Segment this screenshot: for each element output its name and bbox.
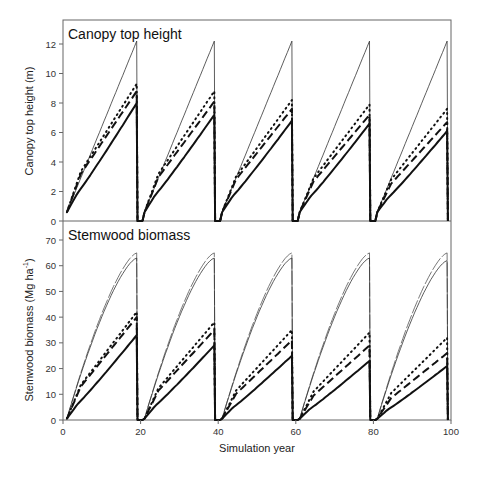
canopy-height-panel: Canopy top height 024681012 Canopy top h… [23,26,448,227]
y-tick-label: 20 [45,363,56,374]
y-tick-label: 8 [51,98,56,109]
y-tick-label: 4 [51,157,56,168]
x-tick-label: 40 [213,426,224,437]
y-tick-label: 10 [45,389,56,400]
x-tick-label: 0 [60,426,65,437]
y-tick-label: 6 [51,127,56,138]
y-tick-label: 0 [51,216,56,227]
y-axis-ticks-top: 024681012 [45,39,63,227]
x-tick-label: 60 [291,426,302,437]
y-axis-label-top: Canopy top height (m) [23,67,35,176]
y-axis-ticks-bottom: 010203040506070 [45,235,63,426]
y-tick-label: 50 [45,286,56,297]
y-tick-label: 70 [45,235,56,246]
y-axis-label-bottom: Stemwood biomass (Mg ha-1) [22,258,35,401]
series-line-thick-solid [67,103,448,221]
x-axis-ticks: 020406080100 [60,420,459,437]
series-line-thin-dashed [67,253,448,420]
y-axis-label-text: Stemwood biomass (Mg ha [23,267,35,401]
chart: Canopy top height 024681012 Canopy top h… [0,0,480,478]
x-axis-label: Simulation year [219,442,295,454]
y-axis-label-close: ) [23,258,35,262]
x-tick-label: 80 [368,426,379,437]
y-tick-label: 10 [45,68,56,79]
y-tick-label: 12 [45,39,56,50]
stemwood-biomass-panel: Stemwood biomass 010203040506070 Stemwoo… [22,227,448,426]
series-line-dashed [67,91,448,221]
panel-title-stemwood: Stemwood biomass [68,227,190,243]
y-tick-label: 0 [51,415,56,426]
y-tick-label: 30 [45,337,56,348]
series-lines-top [67,41,448,221]
x-tick-label: 20 [135,426,146,437]
y-tick-label: 2 [51,186,56,197]
series-lines-bottom [67,253,448,420]
panel-title-canopy: Canopy top height [68,26,182,42]
series-line-dotted [67,312,448,420]
series-line-thin-solid [67,258,448,420]
x-tick-label: 100 [443,426,459,437]
y-tick-label: 60 [45,260,56,271]
y-tick-label: 40 [45,312,56,323]
